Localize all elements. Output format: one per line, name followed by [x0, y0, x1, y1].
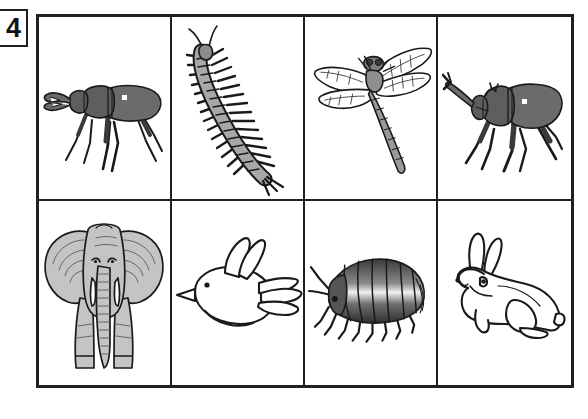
- grid-cell-dragonfly[interactable]: [305, 17, 438, 201]
- dragonfly-illustration: [305, 26, 436, 191]
- grid-cell-rabbit[interactable]: [438, 201, 571, 385]
- rhinoceros-beetle-illustration: [442, 23, 567, 193]
- pill-bug-illustration: [305, 233, 436, 353]
- grid-cell-bird[interactable]: [172, 201, 305, 385]
- grid-cell-centipede[interactable]: [172, 17, 305, 201]
- grid-cell-elephant[interactable]: [39, 201, 172, 385]
- centipede-illustration: [173, 21, 303, 196]
- question-number-box: 4: [0, 9, 28, 47]
- rabbit-illustration: [442, 228, 568, 358]
- worksheet-page: 4: [0, 0, 588, 419]
- stag-beetle-illustration: [40, 23, 170, 193]
- animal-picture-grid: [36, 14, 574, 388]
- bird-illustration: [173, 233, 303, 353]
- grid-cell-stag-beetle[interactable]: [39, 17, 172, 201]
- grid-cell-rhinoceros-beetle[interactable]: [438, 17, 571, 201]
- grid-cell-pill-bug[interactable]: [305, 201, 438, 385]
- question-number-label: 4: [6, 15, 20, 42]
- elephant-illustration: [40, 206, 170, 381]
